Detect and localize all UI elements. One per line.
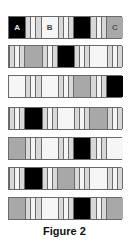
striped-cell — [74, 108, 90, 129]
figure-caption: Figure 2 — [0, 225, 129, 237]
stripe-bar — [102, 198, 106, 219]
white-block — [42, 198, 58, 219]
stripe-bar — [53, 46, 57, 67]
striped-cell — [107, 46, 123, 67]
gray-block — [25, 46, 41, 67]
striped-cell — [74, 46, 90, 67]
stripe-bar — [85, 108, 89, 129]
white-block — [107, 138, 123, 159]
pattern-row-3 — [8, 75, 122, 98]
gray-block — [58, 168, 74, 189]
black-block: A — [9, 17, 25, 38]
striped-cell — [58, 76, 74, 97]
stripe-bar — [118, 168, 122, 189]
gray-block: C — [107, 17, 123, 38]
block-label: B — [47, 23, 53, 32]
black-block — [107, 76, 123, 97]
striped-cell — [90, 76, 106, 97]
gray-block — [9, 198, 25, 219]
striped-cell — [58, 138, 74, 159]
black-block — [25, 108, 41, 129]
striped-cell — [90, 17, 106, 38]
striped-cell — [25, 138, 41, 159]
stripe-bar — [118, 46, 122, 67]
striped-cell — [90, 138, 106, 159]
striped-cell — [25, 198, 41, 219]
stripe-bar — [36, 17, 40, 38]
stripe-bar — [85, 168, 89, 189]
block-label: A — [14, 23, 20, 32]
striped-cell — [9, 108, 25, 129]
gray-block — [107, 198, 123, 219]
pattern-row-6 — [8, 167, 122, 190]
stripe-bar — [20, 168, 24, 189]
striped-cell — [42, 108, 58, 129]
pattern-row-2 — [8, 45, 122, 68]
black-block — [25, 168, 41, 189]
white-block — [42, 138, 58, 159]
striped-cell — [107, 108, 123, 129]
white-block: B — [42, 17, 58, 38]
stripe-bar — [36, 138, 40, 159]
black-block — [74, 198, 90, 219]
stripe-bar — [53, 108, 57, 129]
stripe-bar — [102, 76, 106, 97]
stripe-bar — [118, 108, 122, 129]
stripe-bar — [53, 168, 57, 189]
striped-cell — [107, 168, 123, 189]
stripe-bar — [36, 76, 40, 97]
white-block — [9, 76, 25, 97]
stripe-bar — [69, 138, 73, 159]
striped-cell — [58, 198, 74, 219]
pattern-row-4 — [8, 107, 122, 130]
striped-cell — [58, 17, 74, 38]
striped-cell — [42, 46, 58, 67]
stripe-bar — [69, 198, 73, 219]
pattern-row-1: ABC — [8, 16, 122, 39]
striped-cell — [25, 17, 41, 38]
pattern-row-7 — [8, 197, 122, 220]
striped-cell — [9, 46, 25, 67]
striped-cell — [9, 168, 25, 189]
block-label: C — [112, 23, 118, 32]
stripe-bar — [36, 198, 40, 219]
stripe-bar — [69, 76, 73, 97]
white-block — [90, 168, 106, 189]
stripe-bar — [102, 17, 106, 38]
white-block — [58, 108, 74, 129]
stripe-bar — [85, 46, 89, 67]
striped-cell — [25, 76, 41, 97]
striped-cell — [74, 168, 90, 189]
black-block — [74, 17, 90, 38]
gray-block — [90, 108, 106, 129]
black-block — [58, 46, 74, 67]
gray-block — [9, 138, 25, 159]
white-block — [42, 76, 58, 97]
stripe-bar — [20, 108, 24, 129]
striped-cell — [42, 168, 58, 189]
gray-block — [74, 76, 90, 97]
black-block — [74, 138, 90, 159]
white-block — [90, 46, 106, 67]
stripe-bar — [20, 46, 24, 67]
pattern-row-5 — [8, 137, 122, 160]
stripe-bar — [69, 17, 73, 38]
stripe-bar — [102, 138, 106, 159]
striped-cell — [90, 198, 106, 219]
